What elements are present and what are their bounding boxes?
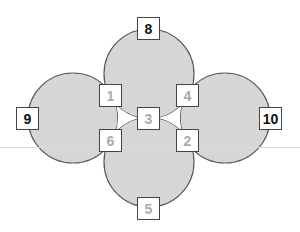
box-5: 5 bbox=[137, 197, 160, 220]
box-4: 4 bbox=[176, 84, 199, 107]
box-2: 2 bbox=[176, 129, 199, 152]
box-8: 8 bbox=[137, 17, 160, 40]
box-1: 1 bbox=[99, 84, 122, 107]
box-10: 10 bbox=[259, 107, 282, 130]
box-9: 9 bbox=[16, 107, 39, 130]
box-6: 6 bbox=[99, 129, 122, 152]
circle-number-diagram: 8 9 10 1 4 3 6 2 5 bbox=[0, 0, 300, 232]
faint-horizontal-line bbox=[0, 147, 300, 148]
box-3: 3 bbox=[137, 107, 160, 130]
